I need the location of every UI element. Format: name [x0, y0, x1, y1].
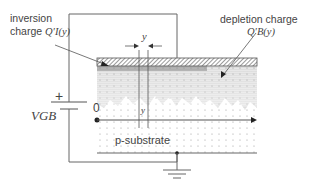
y-label: y: [141, 104, 145, 116]
substrate-label: p-substrate: [115, 134, 170, 146]
origin-label: 0: [93, 102, 100, 114]
dy-label: y: [142, 31, 147, 43]
inversion-symbol: Q′I(y): [45, 26, 70, 37]
plus-sign: +: [55, 90, 63, 102]
depletion-label: depletion charge: [220, 13, 298, 25]
inversion-layer: [97, 66, 207, 71]
vgb-label: VGB: [31, 110, 56, 122]
depletion-symbol: Q′B(y): [247, 26, 275, 38]
inversion-label-line1: inversion: [10, 12, 52, 24]
inversion-pointer: [55, 45, 104, 64]
inversion-label-line2: charge Q′I(y): [10, 25, 70, 38]
